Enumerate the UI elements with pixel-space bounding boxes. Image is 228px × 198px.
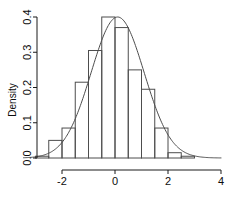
x-axis-tick-label: 0 (112, 175, 118, 187)
y-axis: 0.00.10.20.30.4 (21, 9, 37, 165)
histogram-bar (168, 153, 181, 158)
histogram-bars (36, 17, 195, 158)
y-axis-ticks (33, 17, 37, 158)
y-axis-tick-labels: 0.00.10.20.30.4 (21, 9, 33, 165)
x-axis-ticks (62, 170, 221, 174)
y-axis-tick-label: 0.4 (21, 9, 33, 24)
y-axis-tick-label: 0.1 (21, 115, 33, 130)
histogram-bar (89, 50, 102, 158)
x-axis: -2024 (57, 170, 224, 187)
x-axis-tick-label: 2 (165, 175, 171, 187)
histogram-bar (128, 70, 141, 158)
y-axis-title: Density (7, 83, 18, 116)
density-curve-group (24, 17, 221, 158)
y-axis-tick-label: 0.3 (21, 45, 33, 60)
histogram-bar (181, 156, 194, 158)
y-axis-tick-label: 0.0 (21, 150, 33, 165)
density-histogram-plot: 0.00.10.20.30.4 -2024 Density (0, 0, 228, 198)
x-axis-tick-label: -2 (57, 175, 67, 187)
plot-canvas: 0.00.10.20.30.4 -2024 Density (0, 0, 228, 198)
histogram-bar (75, 82, 88, 158)
histogram-bar (155, 128, 168, 158)
histogram-bar (115, 28, 128, 158)
x-axis-tick-label: 4 (218, 175, 224, 187)
normal-density-curve (24, 17, 221, 158)
histogram-bar (102, 17, 115, 158)
x-axis-tick-labels: -2024 (57, 175, 224, 187)
y-axis-tick-label: 0.2 (21, 80, 33, 95)
